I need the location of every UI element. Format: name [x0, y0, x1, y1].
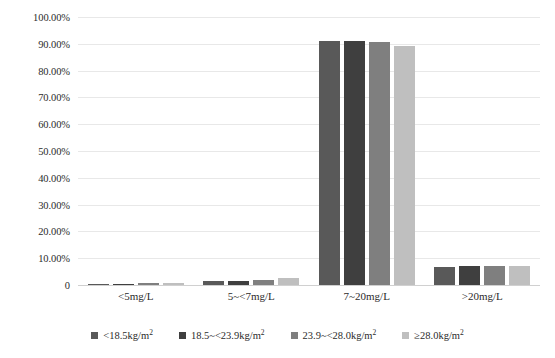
legend-label-superscript: 2 [149, 328, 153, 337]
y-axis-tick-label: 100.00% [33, 12, 70, 23]
bar[interactable] [369, 42, 390, 285]
legend-item[interactable]: ≥28.0kg/m2 [402, 330, 463, 341]
bar-group [194, 17, 310, 285]
bar[interactable] [344, 41, 365, 285]
y-axis-tick-label: 70.00% [38, 92, 70, 103]
legend-item[interactable]: 18.5~<23.9kg/m2 [179, 330, 265, 341]
x-axis-category-label: <5mg/L [78, 286, 194, 308]
y-axis-tick-label: 50.00% [38, 146, 70, 157]
bar[interactable] [228, 281, 249, 285]
legend: <18.5kg/m218.5~<23.9kg/m223.9~<28.0kg/m2… [0, 330, 555, 341]
y-axis-tick-label: 10.00% [38, 253, 70, 264]
legend-label: ≥28.0kg/m2 [414, 330, 463, 341]
y-axis: 100.00%90.00%80.00%70.00%60.00%50.00%40.… [0, 0, 78, 300]
legend-swatch-icon [402, 332, 409, 339]
bar[interactable] [253, 280, 274, 285]
legend-label-text: ≥28.0kg/m [414, 330, 460, 341]
bar-group [425, 17, 541, 285]
legend-label: <18.5kg/m2 [103, 330, 153, 341]
bar[interactable] [394, 46, 415, 285]
y-axis-tick-label: 30.00% [38, 199, 70, 210]
legend-swatch-icon [179, 332, 186, 339]
x-axis-category-label: 5~<7mg/L [194, 286, 310, 308]
legend-label-text: <18.5kg/m [103, 330, 149, 341]
bar[interactable] [484, 266, 505, 285]
bar[interactable] [113, 284, 134, 285]
bar-group [78, 17, 194, 285]
bar-group [309, 17, 425, 285]
y-axis-tick-label: 0 [65, 280, 70, 291]
bar[interactable] [88, 284, 109, 285]
bar[interactable] [459, 266, 480, 285]
bar[interactable] [434, 267, 455, 285]
legend-label-text: 18.5~<23.9kg/m [191, 330, 261, 341]
bar[interactable] [509, 266, 530, 285]
y-axis-tick-label: 20.00% [38, 226, 70, 237]
x-axis-category-label: 7~20mg/L [309, 286, 425, 308]
legend-swatch-icon [91, 332, 98, 339]
legend-label-superscript: 2 [373, 328, 377, 337]
legend-label-superscript: 2 [460, 328, 464, 337]
bar[interactable] [319, 41, 340, 285]
plot-area [78, 17, 540, 285]
bar[interactable] [138, 283, 159, 285]
x-axis-category-label: >20mg/L [425, 286, 541, 308]
legend-label-text: 23.9~<28.0kg/m [303, 330, 373, 341]
legend-label-superscript: 2 [261, 328, 265, 337]
y-axis-tick-label: 80.00% [38, 65, 70, 76]
x-axis: <5mg/L5~<7mg/L7~20mg/L>20mg/L [78, 286, 540, 308]
bar-groups [78, 17, 540, 285]
bar-chart: 100.00%90.00%80.00%70.00%60.00%50.00%40.… [0, 0, 555, 358]
legend-label: 18.5~<23.9kg/m2 [191, 330, 265, 341]
y-axis-tick-label: 40.00% [38, 172, 70, 183]
legend-swatch-icon [291, 332, 298, 339]
bar[interactable] [163, 283, 184, 285]
bar[interactable] [203, 281, 224, 285]
legend-item[interactable]: <18.5kg/m2 [91, 330, 153, 341]
y-axis-tick-label: 60.00% [38, 119, 70, 130]
y-axis-tick-label: 90.00% [38, 38, 70, 49]
bar[interactable] [278, 278, 299, 285]
legend-item[interactable]: 23.9~<28.0kg/m2 [291, 330, 377, 341]
legend-label: 23.9~<28.0kg/m2 [303, 330, 377, 341]
